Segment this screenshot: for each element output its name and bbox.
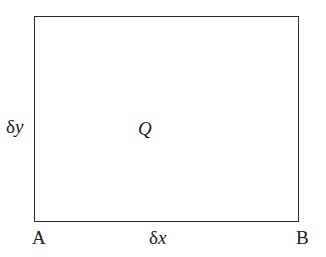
y-variable: y bbox=[15, 116, 23, 137]
corner-label-a: A bbox=[32, 228, 46, 247]
rectangle-element-diagram: A B δx δy Q bbox=[0, 0, 326, 257]
height-label-delta-y: δy bbox=[6, 117, 23, 136]
width-label-delta-x: δx bbox=[149, 228, 166, 247]
delta-symbol: δ bbox=[6, 116, 15, 137]
x-variable: x bbox=[158, 227, 166, 248]
corner-label-b: B bbox=[296, 228, 309, 247]
center-label-q: Q bbox=[138, 119, 152, 138]
rectangle-outline bbox=[34, 16, 299, 222]
delta-symbol: δ bbox=[149, 227, 158, 248]
